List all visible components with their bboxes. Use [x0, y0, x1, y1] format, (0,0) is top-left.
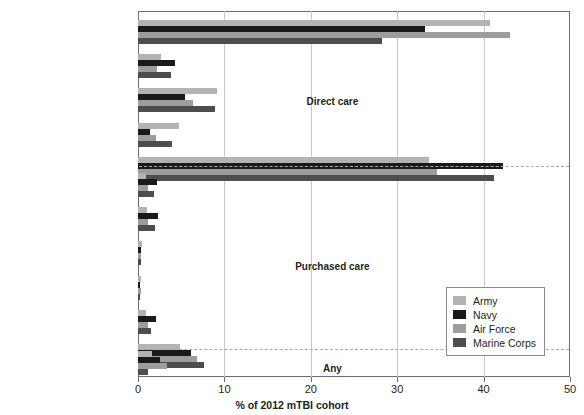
bar-marine-corps[interactable] [138, 294, 140, 300]
bar-marine-corps[interactable] [138, 38, 382, 44]
legend: Army Navy Air Force Marine Corps [446, 287, 545, 356]
bar-group [0, 173, 584, 197]
section-label-direct-care: Direct care [307, 96, 359, 107]
x-tick-label-50: 50 [564, 383, 576, 395]
x-tick-label-30: 30 [391, 383, 403, 395]
bar-marine-corps[interactable] [138, 328, 151, 334]
x-tick-50 [570, 377, 571, 382]
bar-marine-corps[interactable] [138, 106, 215, 112]
x-tick-20 [311, 377, 312, 382]
bar-marine-corps[interactable] [138, 72, 171, 78]
bar-chart: Primary care*Emergency department*Behavi… [0, 0, 584, 415]
legend-swatch-navy [453, 310, 466, 319]
x-tick-label-40: 40 [477, 383, 489, 395]
section-label-any: Any [323, 363, 342, 374]
legend-label-air-force: Air Force [473, 323, 516, 335]
legend-label-navy: Navy [473, 309, 497, 321]
legend-swatch-air-force [453, 324, 466, 333]
legend-swatch-army [453, 296, 466, 305]
bar-group [0, 123, 584, 147]
bar-marine-corps[interactable] [138, 141, 172, 147]
bar-group [0, 88, 584, 112]
section-label-purchased-care: Purchased care [295, 261, 370, 272]
bar-group [0, 241, 584, 265]
bar-marine-corps[interactable] [138, 225, 155, 231]
bar-group [0, 207, 584, 231]
legend-swatch-marine-corps [453, 338, 466, 347]
bar-marine-corps[interactable] [138, 369, 148, 375]
legend-item-marine-corps[interactable]: Marine Corps [453, 336, 536, 349]
x-tick-40 [484, 377, 485, 382]
legend-item-air-force[interactable]: Air Force [453, 322, 536, 335]
legend-label-marine-corps: Marine Corps [473, 337, 536, 349]
x-tick-label-20: 20 [305, 383, 317, 395]
x-tick-label-10: 10 [218, 383, 230, 395]
legend-item-army[interactable]: Army [453, 294, 536, 307]
x-tick-10 [224, 377, 225, 382]
x-tick-30 [397, 377, 398, 382]
section-divider [139, 166, 569, 167]
bar-marine-corps[interactable] [138, 191, 154, 197]
bar-group [0, 54, 584, 78]
legend-label-army: Army [473, 295, 498, 307]
x-axis-title: % of 2012 mTBI cohort [0, 399, 584, 411]
bar-marine-corps[interactable] [138, 259, 141, 265]
bar-group [0, 20, 584, 44]
x-tick-0 [138, 377, 139, 382]
legend-item-navy[interactable]: Navy [453, 308, 536, 321]
x-tick-label-0: 0 [135, 383, 141, 395]
